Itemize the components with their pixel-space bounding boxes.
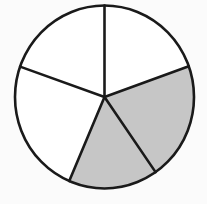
pie-diagram [0,0,207,204]
figure-root [0,0,207,204]
